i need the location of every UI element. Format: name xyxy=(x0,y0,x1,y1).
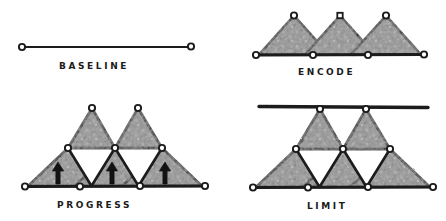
encode-baseline xyxy=(256,55,424,56)
vertex-node xyxy=(310,52,316,58)
vertex-node xyxy=(188,43,194,49)
vertex-node xyxy=(365,52,371,58)
progress-baseline xyxy=(25,186,205,187)
vertex-node xyxy=(137,183,143,189)
vertex-node xyxy=(430,184,436,190)
vertex-node xyxy=(112,145,118,151)
limit-bar xyxy=(259,107,428,108)
vertex-node xyxy=(421,51,427,57)
vertex-node xyxy=(337,13,342,18)
hand-drawn-diagram: BASELINE ENCODE xyxy=(0,0,446,221)
vertex-node xyxy=(253,52,259,58)
vertex-node xyxy=(159,145,165,151)
baseline-line xyxy=(22,47,191,48)
vertex-node xyxy=(365,184,371,190)
vertex-node xyxy=(202,183,208,189)
vertex-node xyxy=(19,44,25,50)
vertex-node xyxy=(383,12,389,18)
vertex-node xyxy=(340,146,346,152)
vertex-node xyxy=(305,184,311,190)
vertex-node xyxy=(291,12,297,18)
panel-label-baseline: BASELINE xyxy=(59,61,129,71)
vertex-node xyxy=(293,146,299,152)
vertex-node xyxy=(77,183,83,189)
vertex-node xyxy=(250,184,256,190)
limit-baseline xyxy=(253,187,433,188)
vertex-node xyxy=(135,105,141,111)
vertex-node xyxy=(89,105,95,111)
vertex-node xyxy=(317,106,323,112)
panel-label-progress: PROGRESS xyxy=(57,200,132,210)
vertex-node xyxy=(387,146,393,152)
vertex-node xyxy=(363,106,369,112)
vertex-node xyxy=(65,145,71,151)
vertex-node xyxy=(22,183,28,189)
panel-label-limit: LIMIT xyxy=(307,201,348,211)
panel-label-encode: ENCODE xyxy=(298,67,355,77)
